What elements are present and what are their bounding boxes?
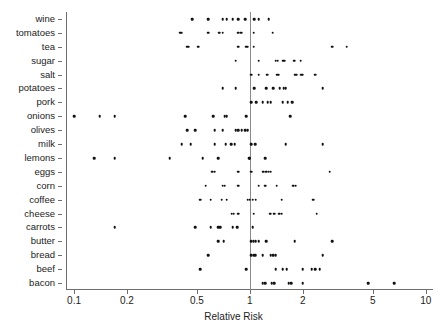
data-point <box>73 115 76 118</box>
data-point <box>237 18 240 21</box>
x-axis-tick-labels: 0.10.20.512510 <box>66 296 433 309</box>
data-point <box>224 184 227 187</box>
data-point <box>252 226 255 229</box>
y-axis-tick <box>58 130 62 131</box>
data-point <box>250 171 253 174</box>
data-point <box>254 198 257 201</box>
data-point <box>188 45 191 48</box>
data-point <box>312 198 315 201</box>
y-axis-tick <box>58 214 62 215</box>
y-axis-label-olives: olives <box>31 125 55 135</box>
data-point <box>284 143 287 146</box>
data-point <box>210 198 213 201</box>
data-point <box>219 226 222 229</box>
x-axis-tick <box>373 290 374 294</box>
data-point <box>291 101 294 104</box>
data-point <box>241 129 244 132</box>
x-axis-title: Relative Risk <box>0 311 443 322</box>
data-point <box>199 198 202 201</box>
data-point <box>367 282 370 285</box>
data-point <box>246 45 249 48</box>
y-axis-tick <box>58 269 62 270</box>
data-point <box>207 18 210 21</box>
data-point <box>253 18 256 21</box>
y-axis-label-pork: pork <box>37 98 55 108</box>
data-point <box>191 18 194 21</box>
data-point <box>232 18 235 21</box>
data-point <box>207 254 210 257</box>
data-point <box>293 240 296 243</box>
y-axis-tick <box>58 283 62 284</box>
data-point <box>194 226 197 229</box>
y-axis-tick <box>58 19 62 20</box>
data-point <box>221 18 224 21</box>
data-point <box>322 87 325 90</box>
data-point <box>267 18 270 21</box>
y-axis-label-carrots: carrots <box>26 223 55 233</box>
data-point <box>237 45 240 48</box>
data-point <box>213 129 216 132</box>
data-point <box>236 226 239 229</box>
y-axis-tick <box>58 200 62 201</box>
data-point <box>252 212 255 215</box>
data-point <box>197 45 200 48</box>
data-point <box>261 101 264 104</box>
scatter-plot-figure: winetomatoesteasugarsaltpotatoesporkonio… <box>0 0 443 335</box>
data-point <box>269 171 272 174</box>
data-point <box>220 198 223 201</box>
y-axis-tick <box>58 241 62 242</box>
data-point <box>186 129 189 132</box>
y-axis-tick <box>58 227 62 228</box>
y-axis-tick <box>58 61 62 62</box>
y-axis-label-sugar: sugar <box>31 56 55 66</box>
data-point <box>189 143 192 146</box>
data-point <box>245 268 248 271</box>
x-axis-tick-label: 10 <box>420 296 431 306</box>
y-axis-label-onions: onions <box>27 112 55 122</box>
data-point <box>281 198 284 201</box>
data-point <box>222 240 225 243</box>
y-axis-label-tomatoes: tomatoes <box>16 28 55 38</box>
data-point <box>113 115 116 118</box>
data-point <box>218 32 221 35</box>
data-point <box>253 87 256 90</box>
data-point <box>217 240 220 243</box>
data-point <box>393 282 396 285</box>
y-axis-label-bacon: bacon <box>29 278 55 288</box>
data-point <box>250 143 253 146</box>
data-point <box>322 143 325 146</box>
data-point <box>255 101 258 104</box>
data-point <box>345 45 348 48</box>
data-point <box>233 143 236 146</box>
x-axis-tick <box>250 290 251 294</box>
data-point <box>199 268 202 271</box>
data-point <box>221 129 224 132</box>
data-point <box>302 282 305 285</box>
y-axis-tick <box>58 255 62 256</box>
data-point <box>272 87 275 90</box>
data-point <box>286 101 289 104</box>
data-point <box>232 212 235 215</box>
data-point <box>234 87 237 90</box>
y-axis-tick <box>58 102 62 103</box>
data-point <box>232 226 235 229</box>
data-point <box>180 32 183 35</box>
data-point <box>254 143 257 146</box>
data-point <box>257 59 260 62</box>
y-axis-tick <box>58 186 62 187</box>
data-point <box>322 254 325 257</box>
x-axis-tick <box>74 290 75 294</box>
data-point <box>289 115 292 118</box>
y-axis-labels: winetomatoesteasugarsaltpotatoesporkonio… <box>0 12 62 290</box>
y-axis-label-milk: milk <box>38 139 55 149</box>
plot-area <box>66 12 433 290</box>
data-point <box>244 18 247 21</box>
y-axis-label-coffee: coffee <box>29 195 55 205</box>
x-axis-tick <box>197 290 198 294</box>
data-point <box>265 87 268 90</box>
data-point <box>225 143 228 146</box>
data-point <box>277 73 280 76</box>
y-axis-label-lemons: lemons <box>24 153 55 163</box>
data-point <box>295 73 298 76</box>
data-point <box>290 282 293 285</box>
